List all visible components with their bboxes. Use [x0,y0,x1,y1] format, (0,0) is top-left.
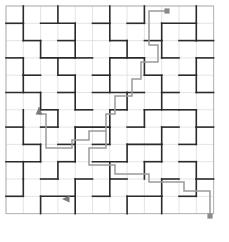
end-dot [207,213,212,218]
maze-puzzle-figure [0,0,229,242]
canvas-background [0,0,229,242]
maze-svg-canvas [0,0,229,242]
start-dot [164,8,169,13]
